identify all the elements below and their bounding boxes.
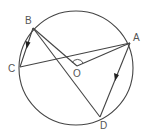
label-d: D xyxy=(100,120,107,131)
segment-ca xyxy=(20,43,130,67)
segment-bd xyxy=(33,28,100,117)
label-c: C xyxy=(8,63,15,74)
label-a: A xyxy=(133,32,140,43)
segment-bo xyxy=(33,28,77,66)
label-o: O xyxy=(73,68,81,79)
circle-diagram: B C A D O xyxy=(0,0,149,136)
label-b: B xyxy=(25,15,32,26)
